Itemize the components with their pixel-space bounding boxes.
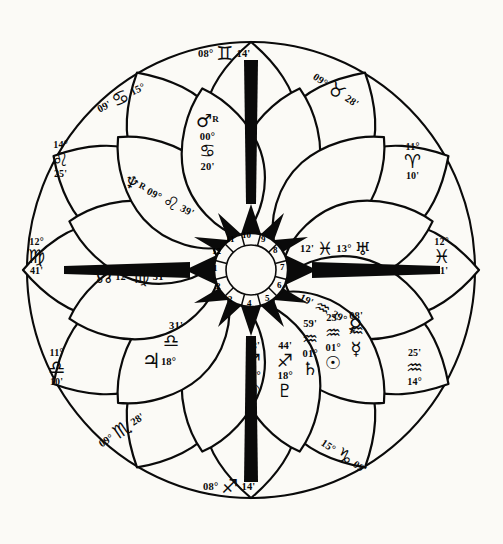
mercury-icon: ☿ xyxy=(351,338,362,359)
moon-icon: ☽ xyxy=(245,380,261,401)
cusp-degree: 14° xyxy=(406,377,423,387)
planet-label-moon: 48' ♐ 17° ☽ xyxy=(245,340,261,401)
cusp-label-virgo: 12° ♍ 41' xyxy=(28,237,45,277)
house-number-1: 1 xyxy=(213,263,218,273)
sign-glyph-libra: ♎ xyxy=(48,358,65,377)
house-number-11: 11 xyxy=(226,234,235,244)
house-number-5: 5 xyxy=(265,293,270,303)
planet-degree: 13° xyxy=(336,243,351,254)
sign-glyph-sagittarius: ♐ xyxy=(221,475,238,497)
sign-glyph-cancer: ♋ xyxy=(199,140,215,161)
sign-glyph-aquarius: ♒ xyxy=(302,328,318,349)
planet-label-jupiter: 31' ♎ ♃18° xyxy=(135,320,183,372)
planet-minute: 12' xyxy=(300,243,314,254)
planet-degree: 12° xyxy=(115,271,130,282)
cusp-degree: 09° xyxy=(311,71,330,89)
planet-label-node: ☊ 12° ♍ 51' xyxy=(96,268,167,287)
sign-glyph-sagittarius: ♐ xyxy=(245,350,261,371)
retrograde-mark: R xyxy=(212,114,219,124)
pluto-icon: ♇ xyxy=(277,380,293,401)
cusp-label-aquarius: 25' ♒ 14° xyxy=(406,348,423,388)
house-number-7: 7 xyxy=(280,262,285,272)
house-number-3: 3 xyxy=(228,294,233,304)
cusp-label-aries: 11° ♈ 10' xyxy=(404,142,421,182)
house-number-8: 8 xyxy=(273,245,278,255)
house-number-10: 10 xyxy=(242,230,251,240)
cusp-label-leo: 14° ♌ 25' xyxy=(52,140,69,180)
cusp-minute: 10' xyxy=(48,377,65,387)
sign-glyph-sagittarius: ♐ xyxy=(277,350,293,371)
planet-label-saturn: 59' ♒ 01° ♄ xyxy=(302,318,318,379)
cusp-degree: 15° xyxy=(319,437,338,455)
cusp-degree: 08° xyxy=(203,481,218,492)
jupiter-icon: ♃ xyxy=(142,349,161,373)
cusp-minute: 14' xyxy=(236,48,250,59)
chart-linework xyxy=(0,0,503,544)
uranus-icon: ♅ xyxy=(355,238,371,259)
cusp-minute: 41' xyxy=(433,266,450,276)
cusp-label-pisces: 12° ♓ 41' xyxy=(433,237,450,277)
cusp-label-gemini: 08° ♊ 14' xyxy=(198,44,250,64)
planet-label-uranus: 12' ♓ 13° ♅ xyxy=(300,240,371,259)
sign-glyph-pisces: ♓ xyxy=(433,247,450,266)
sign-glyph-leo: ♌ xyxy=(52,150,69,169)
planet-label-pluto: 44' ♐ 18° ♇ xyxy=(277,340,293,401)
sign-glyph-virgo: ♍ xyxy=(133,266,149,287)
cusp-minute: 10' xyxy=(404,171,421,181)
cusp-label-libra: 11° ♎ 10' xyxy=(48,348,65,388)
astrology-chart-wheel: 08° ♊ 14' 09° ♉ 28' 11° ♈ 10' 12° ♓ 41' … xyxy=(0,0,503,544)
sign-glyph-aquarius: ♒ xyxy=(406,358,423,377)
cusp-degree: 08° xyxy=(198,48,213,59)
mars-icon: ♂ xyxy=(196,110,212,131)
cusp-label-sagittarius: 08° ♐ 14' xyxy=(203,477,255,497)
house-number-4: 4 xyxy=(247,298,252,308)
sign-glyph-pisces: ♓ xyxy=(317,238,333,259)
planet-degree: 18° xyxy=(161,356,176,367)
sign-glyph-libra: ♎ xyxy=(163,330,179,351)
planet-minute: 51' xyxy=(153,271,167,282)
saturn-icon: ♄ xyxy=(302,358,318,379)
cusp-minute: 41' xyxy=(28,266,45,276)
house-number-12: 12 xyxy=(212,246,221,256)
house-number-6: 6 xyxy=(277,280,282,290)
sun-icon: ☉ xyxy=(325,352,341,373)
north-node-icon: ☊ xyxy=(96,266,112,287)
cusp-minute: 14' xyxy=(241,481,255,492)
house-number-9: 9 xyxy=(261,234,266,244)
planet-minute: 20' xyxy=(201,161,215,172)
sign-glyph-gemini: ♊ xyxy=(216,42,233,64)
cusp-minute: 25' xyxy=(52,169,69,179)
planet-degree: 29° xyxy=(330,308,349,325)
sign-glyph-aries: ♈ xyxy=(404,152,421,171)
house-number-2: 2 xyxy=(216,281,221,291)
planet-minute: 19' xyxy=(298,292,315,308)
planet-degree: 09° xyxy=(145,186,164,203)
planet-label-mars: ♂R 00° ♋ 20' xyxy=(196,112,219,173)
sign-glyph-virgo: ♍ xyxy=(28,247,45,266)
